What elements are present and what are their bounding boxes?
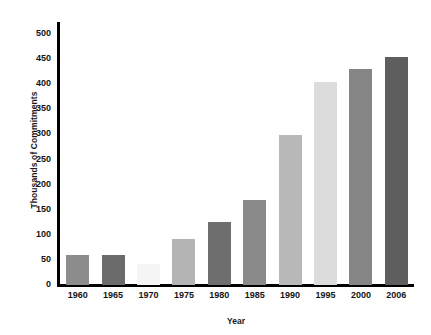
bar-slot xyxy=(137,22,160,285)
bar[interactable] xyxy=(243,200,266,285)
bar-slot xyxy=(208,22,231,285)
bar-slot xyxy=(66,22,89,285)
bar[interactable] xyxy=(349,69,372,285)
bar-slot xyxy=(385,22,408,285)
y-tick-label: 300 xyxy=(18,128,51,138)
bar-slot xyxy=(279,22,302,285)
x-tick-label: 2006 xyxy=(376,290,416,301)
x-axis-title: Year xyxy=(56,316,416,326)
bar[interactable] xyxy=(137,264,160,285)
x-tick-label: 1960 xyxy=(58,290,98,301)
bar-slot xyxy=(102,22,125,285)
bar-slot xyxy=(314,22,337,285)
x-tick-label: 1975 xyxy=(164,290,204,301)
bar[interactable] xyxy=(279,135,302,285)
y-tick-label: 400 xyxy=(18,78,51,88)
x-tick-label: 1990 xyxy=(270,290,310,301)
bar[interactable] xyxy=(385,57,408,285)
x-tick-label: 2000 xyxy=(341,290,381,301)
y-tick-label: 500 xyxy=(18,28,51,38)
cropped-title-artifact xyxy=(300,0,360,6)
bar[interactable] xyxy=(172,239,195,285)
bar-slot xyxy=(349,22,372,285)
x-tick-label: 1985 xyxy=(235,290,275,301)
bar[interactable] xyxy=(66,255,89,285)
bar-chart: Thousands of Commitments 050100150200250… xyxy=(0,0,431,335)
bar[interactable] xyxy=(102,255,125,285)
y-tick-label: 250 xyxy=(18,154,51,164)
bar-slot xyxy=(172,22,195,285)
y-tick-label: 0 xyxy=(18,279,51,289)
y-tick-label: 200 xyxy=(18,179,51,189)
y-tick-label: 100 xyxy=(18,229,51,239)
bar[interactable] xyxy=(208,222,231,285)
plot-area xyxy=(60,22,414,285)
y-tick-label: 50 xyxy=(18,254,51,264)
x-tick-label: 1965 xyxy=(93,290,133,301)
bar-slot xyxy=(243,22,266,285)
x-tick-label: 1970 xyxy=(129,290,169,301)
y-tick-label: 450 xyxy=(18,53,51,63)
x-tick-label: 1995 xyxy=(306,290,346,301)
y-tick-label: 350 xyxy=(18,103,51,113)
x-tick-label: 1980 xyxy=(199,290,239,301)
bar[interactable] xyxy=(314,82,337,285)
y-tick-label: 150 xyxy=(18,204,51,214)
